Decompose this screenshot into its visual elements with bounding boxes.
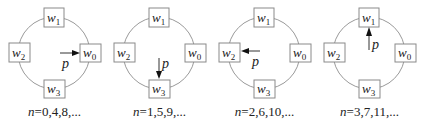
- node-w2: w2: [324, 43, 345, 62]
- caption-panel-1: n=1,5,9,...: [107, 104, 212, 120]
- panel-0: w1 w2 w0 w3 p: [9, 8, 101, 98]
- node-w2: w2: [114, 43, 135, 62]
- pointer-label: p: [161, 56, 169, 71]
- node-w3: w3: [254, 80, 275, 98]
- node-w2: w2: [219, 43, 240, 62]
- node-w1: w1: [149, 8, 169, 27]
- pointer-label: p: [61, 56, 69, 71]
- node-w3: w3: [44, 80, 65, 98]
- caption-panel-3: n=3,7,11,...: [317, 104, 422, 120]
- pointer-label: p: [251, 54, 259, 69]
- pointer-label: p: [371, 37, 379, 52]
- node-w0: w0: [80, 44, 101, 62]
- node-w3: w3: [359, 80, 380, 98]
- panel-1: w1 w2 w0 w3 p: [114, 8, 206, 98]
- node-w1: w1: [44, 8, 64, 27]
- panel-3: w1 w2 w0 w3 p: [324, 8, 416, 98]
- node-w0: w0: [185, 44, 206, 62]
- node-w2: w2: [9, 43, 30, 62]
- node-w3: w3: [149, 80, 170, 98]
- node-w1: w1: [254, 8, 274, 27]
- caption-panel-0: n=0,4,8,...: [2, 104, 107, 120]
- caption-panel-2: n=2,6,10,...: [212, 104, 317, 120]
- node-w0: w0: [290, 44, 311, 62]
- node-w1: w1: [359, 8, 379, 27]
- node-w0: w0: [395, 44, 416, 62]
- panel-2: w1 w2 w0 w3 p: [219, 8, 311, 98]
